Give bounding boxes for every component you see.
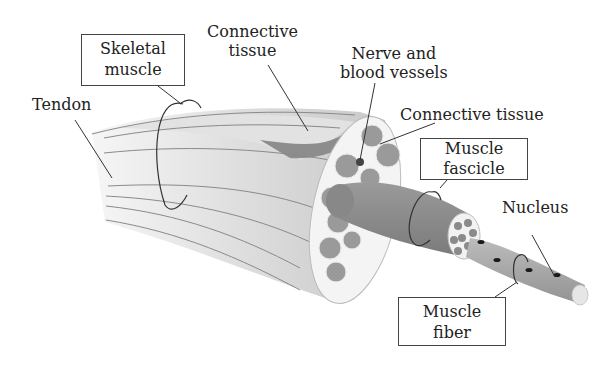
label-muscle-fascicle: Muscle fascicle: [420, 138, 528, 180]
muscle-fiber: [466, 238, 588, 305]
label-skeletal-muscle-line2: muscle: [82, 59, 184, 80]
label-tendon: Tendon: [32, 95, 91, 114]
label-muscle-fascicle-line1: Muscle: [421, 139, 527, 159]
label-connective-tissue-right: Connective tissue: [400, 105, 544, 124]
label-muscle-fascicle-line2: fascicle: [421, 159, 527, 179]
label-nerve-line1: Nerve and: [340, 44, 448, 63]
label-connective-tissue-top-line1: Connective: [207, 22, 298, 41]
label-connective-tissue-top: Connective tissue: [207, 22, 298, 60]
label-nerve-line2: blood vessels: [340, 63, 448, 82]
label-nerve-blood-vessels: Nerve and blood vessels: [340, 44, 448, 82]
label-skeletal-muscle: Skeletal muscle: [81, 34, 185, 86]
label-nucleus: Nucleus: [502, 198, 568, 217]
label-connective-tissue-top-line2: tissue: [207, 41, 298, 60]
label-muscle-fiber: Muscle fiber: [398, 297, 506, 346]
label-muscle-fiber-line1: Muscle: [399, 301, 505, 322]
label-skeletal-muscle-line1: Skeletal: [82, 38, 184, 59]
label-muscle-fiber-line2: fiber: [399, 322, 505, 343]
